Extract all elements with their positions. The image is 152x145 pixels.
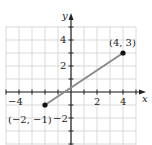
y-tick-label-neg2: −2 [53, 113, 68, 124]
y-axis-label: y [61, 10, 68, 21]
y-tick-label-4: 4 [60, 34, 66, 45]
y-tick-label-2: 2 [60, 60, 66, 71]
x-tick-label-4: 4 [120, 96, 126, 107]
point-end-label: (4, 3) [109, 37, 136, 48]
point-start [42, 102, 47, 107]
point-end [120, 50, 125, 55]
coordinate-plane: −4 2 4 4 2 −2 x y (4, 3) (−2, −1) [0, 0, 152, 145]
y-axis-arrow-icon [69, 13, 74, 20]
point-start-label: (−2, −1) [8, 114, 52, 125]
x-tick-label-neg4: −4 [8, 96, 23, 107]
x-tick-label-2: 2 [94, 96, 100, 107]
x-axis-label: x [142, 93, 148, 104]
